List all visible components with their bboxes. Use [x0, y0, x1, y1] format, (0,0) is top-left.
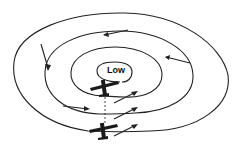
airplane-icon-upper — [90, 80, 119, 97]
weather-low-pressure-diagram — [0, 0, 235, 152]
low-pressure-label: Low — [103, 65, 129, 75]
